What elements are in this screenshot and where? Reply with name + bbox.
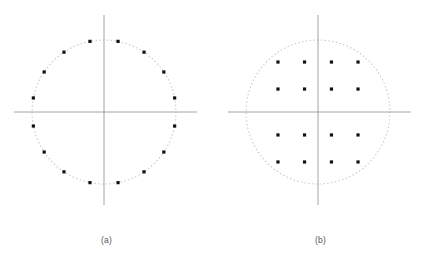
panel-b-plot bbox=[214, 0, 427, 225]
constellation-point bbox=[356, 160, 359, 163]
constellation-point bbox=[356, 60, 359, 63]
panel-b-caption: (b) bbox=[214, 234, 427, 246]
constellation-point bbox=[276, 160, 279, 163]
constellation-point bbox=[162, 150, 165, 153]
constellation-point bbox=[32, 96, 35, 99]
constellation-point bbox=[276, 60, 279, 63]
constellation-point bbox=[88, 181, 91, 184]
constellation-point bbox=[116, 181, 119, 184]
panel-a: (a) bbox=[0, 0, 213, 267]
constellation-point bbox=[32, 124, 35, 127]
constellation-figure: (a) (b) bbox=[0, 0, 427, 267]
constellation-point bbox=[356, 133, 359, 136]
constellation-point bbox=[62, 51, 65, 54]
constellation-point bbox=[116, 40, 119, 43]
constellation-point bbox=[303, 160, 306, 163]
constellation-point bbox=[88, 40, 91, 43]
constellation-point bbox=[303, 87, 306, 90]
constellation-point bbox=[173, 96, 176, 99]
constellation-point bbox=[43, 70, 46, 73]
constellation-point bbox=[303, 133, 306, 136]
constellation-point bbox=[162, 70, 165, 73]
constellation-point bbox=[356, 87, 359, 90]
constellation-point bbox=[173, 124, 176, 127]
constellation-point bbox=[142, 170, 145, 173]
panel-b: (b) bbox=[214, 0, 427, 267]
panel-a-plot bbox=[0, 0, 213, 225]
constellation-point bbox=[276, 87, 279, 90]
constellation-point bbox=[276, 133, 279, 136]
constellation-point bbox=[330, 87, 333, 90]
constellation-point bbox=[330, 60, 333, 63]
panel-a-caption: (a) bbox=[0, 234, 213, 246]
constellation-point bbox=[330, 160, 333, 163]
constellation-point bbox=[330, 133, 333, 136]
constellation-point bbox=[43, 150, 46, 153]
constellation-point bbox=[62, 170, 65, 173]
constellation-point bbox=[303, 60, 306, 63]
constellation-point bbox=[142, 51, 145, 54]
